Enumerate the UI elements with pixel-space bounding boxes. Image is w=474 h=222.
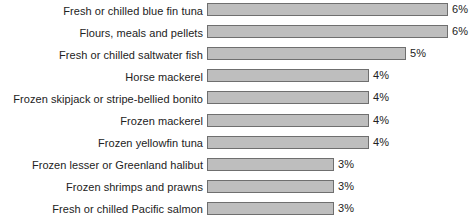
bar <box>207 3 448 16</box>
bar <box>207 91 369 104</box>
bar-track <box>207 47 406 60</box>
category-label: Frozen yellowfin tuna <box>0 137 203 150</box>
bar-value-label: 4% <box>373 90 389 104</box>
bar-value-label: 3% <box>338 179 354 193</box>
bar <box>207 47 406 60</box>
bar-row: Frozen shrimps and prawns3% <box>0 177 474 199</box>
bar <box>207 158 334 171</box>
bar-track <box>207 91 369 104</box>
category-label: Frozen lesser or Greenland halibut <box>0 159 203 172</box>
bar-row: Frozen yellowfin tuna4% <box>0 133 474 155</box>
bar-track <box>207 202 334 215</box>
bar-track <box>207 180 334 193</box>
bar-value-label: 3% <box>338 201 354 215</box>
bar-track <box>207 25 448 38</box>
bar-value-label: 3% <box>338 157 354 171</box>
bar-row: Horse mackerel4% <box>0 66 474 88</box>
bar-value-label: 4% <box>373 68 389 82</box>
bar <box>207 202 334 215</box>
bar <box>207 114 369 127</box>
category-label: Fresh or chilled blue fin tuna <box>0 5 203 18</box>
bar-row: Frozen skipjack or stripe-bellied bonito… <box>0 88 474 110</box>
bar-value-label: 5% <box>410 46 426 60</box>
bar-value-label: 4% <box>373 113 389 127</box>
category-label: Flours, meals and pellets <box>0 27 203 40</box>
category-label: Fresh or chilled Pacific salmon <box>0 203 203 216</box>
bar-row: Flours, meals and pellets6% <box>0 22 474 44</box>
bar-row: Frozen lesser or Greenland halibut3% <box>0 155 474 177</box>
bar-value-label: 6% <box>452 2 468 16</box>
bar-track <box>207 114 369 127</box>
bar-row: Frozen mackerel4% <box>0 111 474 133</box>
bar-row: Fresh or chilled saltwater fish5% <box>0 44 474 66</box>
category-label: Horse mackerel <box>0 71 203 84</box>
horizontal-bar-chart: Fresh or chilled blue fin tuna6%Flours, … <box>0 0 474 222</box>
bar-row: Fresh or chilled Pacific salmon3% <box>0 199 474 221</box>
bar <box>207 69 369 82</box>
bar <box>207 136 369 149</box>
bar-value-label: 4% <box>373 135 389 149</box>
bar <box>207 25 448 38</box>
bar-track <box>207 136 369 149</box>
category-label: Frozen shrimps and prawns <box>0 181 203 194</box>
bar-track <box>207 158 334 171</box>
category-label: Frozen skipjack or stripe-bellied bonito <box>0 93 203 106</box>
bar-track <box>207 3 448 16</box>
bar-track <box>207 69 369 82</box>
category-label: Frozen mackerel <box>0 115 203 128</box>
bar-value-label: 6% <box>452 24 468 38</box>
bar-row: Fresh or chilled blue fin tuna6% <box>0 0 474 22</box>
bar <box>207 180 334 193</box>
category-label: Fresh or chilled saltwater fish <box>0 49 203 62</box>
